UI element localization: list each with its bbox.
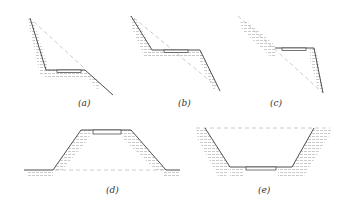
hatch-area [292, 128, 333, 176]
panel-e [196, 128, 333, 176]
pavement [57, 70, 81, 73]
label-a: (a) [78, 98, 91, 108]
pavement [246, 167, 276, 170]
hatch-area [230, 167, 244, 176]
label-d: (d) [106, 185, 119, 195]
original-ground-line [238, 16, 322, 92]
cross-section-diagram: (a) (b) (c) (d) (e) [0, 0, 354, 211]
hatch-area [163, 170, 180, 176]
label-e: (e) [258, 185, 271, 195]
pavement [164, 50, 188, 53]
hatch-area [85, 70, 100, 90]
label-b: (b) [178, 98, 191, 108]
hatch-area [278, 167, 292, 176]
panel-b [130, 16, 220, 91]
pavement [282, 48, 306, 51]
panel-c [238, 16, 323, 93]
panel-a [28, 18, 113, 95]
hatch-area [54, 130, 92, 170]
hatch-area [240, 20, 276, 56]
label-c: (c) [270, 98, 283, 108]
hatch-area [28, 170, 53, 176]
pavement [93, 130, 121, 134]
hatch-area [196, 128, 230, 176]
hatch-area [120, 130, 166, 170]
hatch-area [130, 16, 152, 58]
panel-d [24, 130, 180, 176]
